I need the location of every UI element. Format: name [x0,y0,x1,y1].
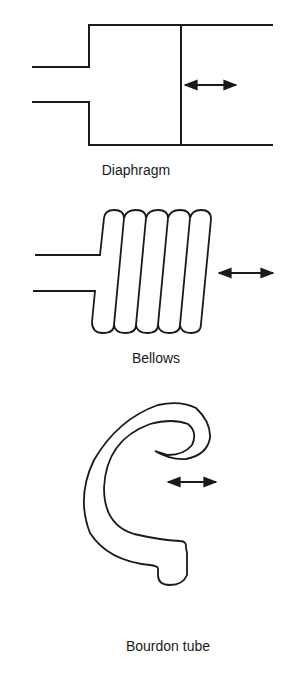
pressure-elements-diagram [0,0,282,673]
diaphragm-drawing [32,25,273,145]
diaphragm-housing-bottom [32,102,273,145]
diaphragm-label: Diaphragm [102,162,170,178]
bourdon-tube-drawing [84,403,216,585]
bellows-label: Bellows [132,350,180,366]
diaphragm-housing-top [32,25,273,67]
bellows-drawing [33,210,273,333]
bourdon-tube-label: Bourdon tube [126,638,210,654]
